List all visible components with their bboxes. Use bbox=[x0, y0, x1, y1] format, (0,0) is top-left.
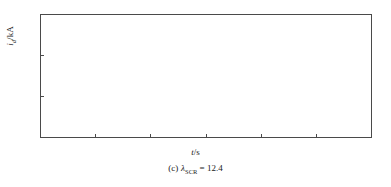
y-axis-unit: /kA bbox=[5, 26, 15, 40]
y-axis-subscript: d bbox=[10, 40, 17, 43]
ticks-group bbox=[41, 15, 372, 138]
figure-container: id/kA t/s (c) λSCR = 12.4 bbox=[0, 0, 391, 187]
x-axis-title: t/s bbox=[0, 147, 391, 157]
plot-frame bbox=[41, 15, 372, 138]
caption-index: (c) bbox=[168, 163, 178, 173]
caption-value: 12.4 bbox=[207, 163, 223, 173]
chart-plot-area bbox=[0, 0, 391, 187]
axes-group bbox=[41, 15, 372, 138]
y-axis-title: id/kA bbox=[5, 16, 17, 56]
x-axis-unit: /s bbox=[194, 147, 200, 157]
y-axis-var: i bbox=[5, 43, 15, 46]
caption-equals: = bbox=[200, 163, 205, 173]
figure-caption: (c) λSCR = 12.4 bbox=[0, 163, 391, 175]
caption-lambda-subscript: SCR bbox=[185, 168, 197, 175]
